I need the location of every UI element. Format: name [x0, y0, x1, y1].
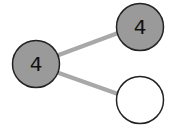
number-bond-diagram: 4 4 — [0, 0, 177, 131]
connector-top — [56, 33, 118, 56]
part-circle-top: 4 — [117, 4, 164, 51]
part-top-value: 4 — [134, 15, 147, 39]
whole-circle: 4 — [13, 41, 60, 88]
whole-value: 4 — [30, 52, 43, 76]
connector-bottom — [56, 72, 118, 94]
part-circle-bottom[interactable] — [117, 77, 164, 124]
